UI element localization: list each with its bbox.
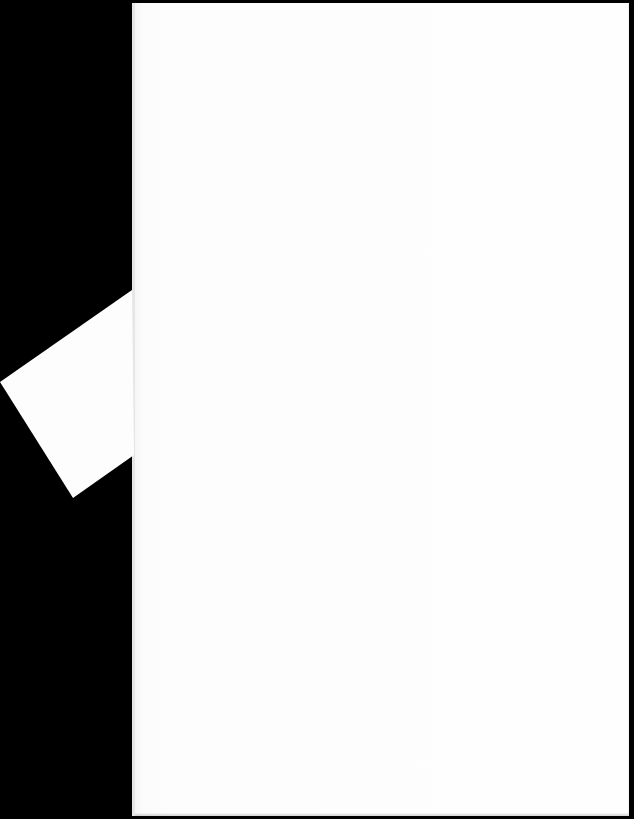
blank-paper-sheet — [132, 3, 629, 816]
paper-left-edge — [132, 3, 135, 816]
flap-shape — [0, 290, 134, 498]
